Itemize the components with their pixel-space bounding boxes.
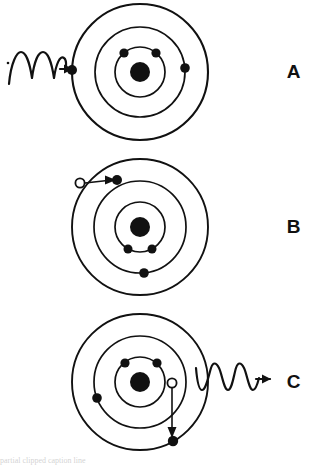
- electron-inner-right: [148, 245, 157, 254]
- panel-c: C: [0, 310, 317, 465]
- electron-middle-bottom: [139, 268, 149, 278]
- panel-a-diagram: [0, 0, 317, 155]
- nucleus: [130, 62, 150, 82]
- electron-inner-left: [119, 48, 128, 57]
- electron-middle-right: [180, 63, 190, 73]
- nucleus: [130, 217, 150, 237]
- panel-label-b: B: [287, 217, 301, 236]
- electron-middle-left: [92, 393, 102, 403]
- electron-middle-upper-left: [112, 175, 122, 185]
- electron-inner-left: [120, 358, 129, 367]
- nucleus: [130, 372, 150, 392]
- hole-middle-right: [167, 378, 176, 387]
- panel-c-diagram: [0, 310, 317, 465]
- panel-label-a: A: [287, 62, 301, 81]
- incoming-photon-wave: [9, 52, 73, 84]
- electron-outer-bottom: [168, 436, 178, 446]
- figure-root: A B: [0, 0, 317, 465]
- electron-inner-right: [151, 48, 160, 57]
- panel-label-c: C: [287, 372, 301, 391]
- panel-b-diagram: [0, 155, 317, 310]
- electron-inner-right: [152, 358, 161, 367]
- bottom-text-artifact: partial clipped caption line: [0, 456, 150, 465]
- panel-a: A: [0, 0, 317, 155]
- electron-transition-arrow: [168, 388, 177, 438]
- wave-tip-dot: [7, 62, 10, 65]
- hole-outer-upper-left: [75, 178, 84, 187]
- panel-b: B: [0, 155, 317, 310]
- electron-inner-left: [124, 245, 133, 254]
